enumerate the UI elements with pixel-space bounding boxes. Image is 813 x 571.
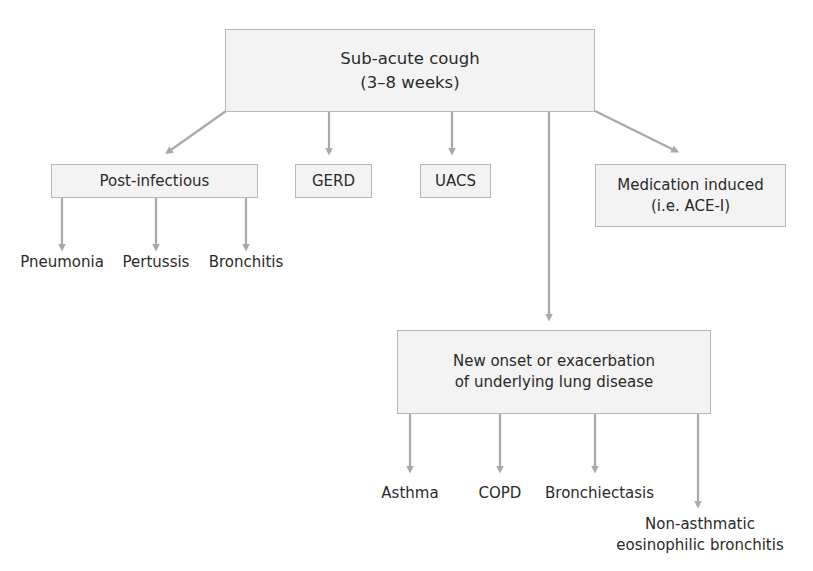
node-label: GERD bbox=[312, 171, 355, 192]
node-label-line2: of underlying lung disease bbox=[455, 372, 654, 393]
node-label: Post-infectious bbox=[100, 171, 210, 192]
leaf-bronchiectasis: Bronchiectasis bbox=[545, 483, 645, 504]
leaf-line2: eosinophilic bronchitis bbox=[607, 535, 793, 556]
node-label: UACS bbox=[435, 171, 476, 192]
leaf-bronchitis: Bronchitis bbox=[201, 252, 291, 273]
node-underlying-lung-disease: New onset or exacerbation of underlying … bbox=[397, 330, 711, 414]
leaf-pertussis: Pertussis bbox=[116, 252, 196, 273]
node-label-line2: (i.e. ACE-I) bbox=[651, 196, 730, 217]
node-label-line1: New onset or exacerbation bbox=[453, 351, 655, 372]
root-node-subacute-cough: Sub-acute cough (3–8 weeks) bbox=[225, 29, 595, 112]
leaf-non-asthmatic-eosinophilic-bronchitis: Non-asthmatic eosinophilic bronchitis bbox=[607, 514, 793, 556]
node-uacs: UACS bbox=[420, 164, 491, 198]
root-node-title: Sub-acute cough bbox=[340, 47, 479, 71]
node-gerd: GERD bbox=[295, 164, 372, 198]
leaf-line1: Non-asthmatic bbox=[607, 514, 793, 535]
root-node-duration: (3–8 weeks) bbox=[360, 71, 459, 95]
node-post-infectious: Post-infectious bbox=[51, 164, 258, 198]
node-label-line1: Medication induced bbox=[617, 175, 764, 196]
leaf-asthma: Asthma bbox=[375, 483, 445, 504]
leaf-copd: COPD bbox=[467, 483, 533, 504]
leaf-pneumonia: Pneumonia bbox=[12, 252, 112, 273]
node-medication-induced: Medication induced (i.e. ACE-I) bbox=[595, 164, 786, 227]
